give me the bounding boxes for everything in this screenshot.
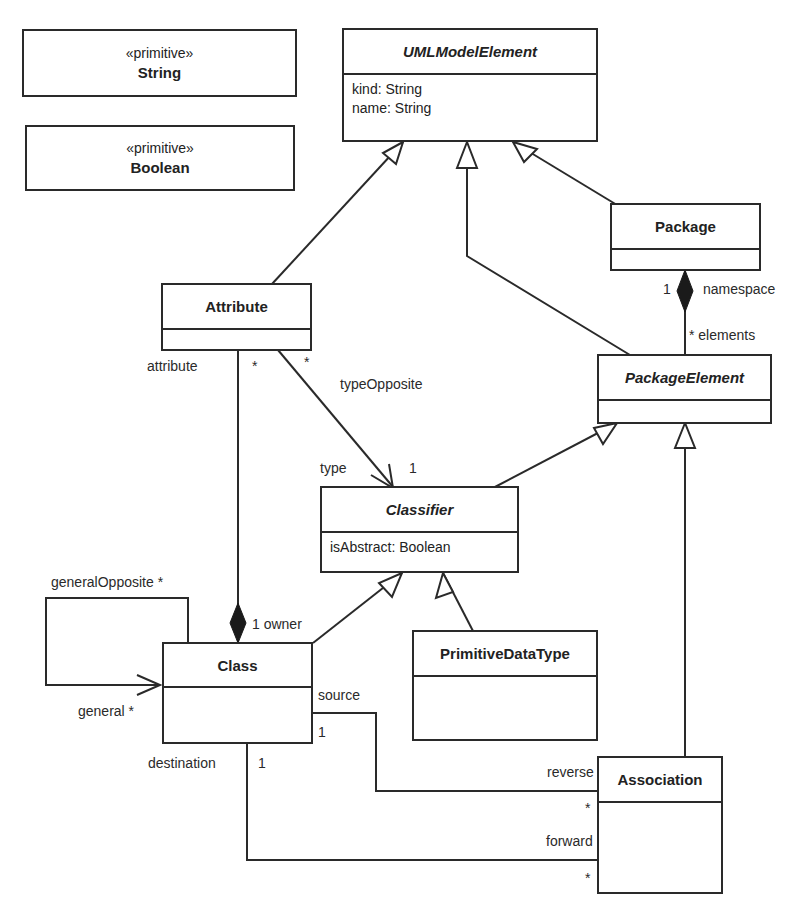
label-type-opposite: typeOpposite: [340, 376, 423, 392]
class-class[interactable]: Class: [162, 642, 313, 744]
attribute-list: kind: String name: String: [344, 75, 596, 123]
class-class-header: Class: [164, 644, 311, 688]
class-name: Package: [655, 218, 716, 235]
class-name: Classifier: [386, 501, 454, 518]
composition-diamond-package: [677, 270, 693, 312]
label-type-multiplicity: 1: [409, 460, 417, 476]
label-forward-multiplicity: *: [585, 870, 590, 886]
label-attribute-star-right: *: [304, 354, 309, 370]
stereotype: «primitive»: [126, 140, 194, 156]
stereotype: «primitive»: [126, 45, 194, 61]
label-namespace: namespace: [703, 281, 775, 297]
class-package-header: Package: [612, 205, 759, 250]
class-name: UMLModelElement: [403, 43, 537, 60]
label-type: type: [320, 460, 346, 476]
attribute-kind: kind: String: [352, 80, 588, 99]
label-reverse-multiplicity: *: [585, 800, 590, 816]
class-boolean[interactable]: «primitive» Boolean: [25, 125, 295, 191]
class-association-header: Association: [599, 758, 721, 803]
label-package-multiplicity: 1: [663, 281, 671, 297]
class-packageelement[interactable]: PackageElement: [597, 354, 772, 424]
label-forward: forward: [546, 833, 593, 849]
class-classifier[interactable]: Classifier isAbstract: Boolean: [320, 486, 519, 573]
class-umlmodelelement[interactable]: UMLModelElement kind: String name: Strin…: [342, 28, 598, 142]
class-name: PackageElement: [625, 369, 744, 386]
class-primitivedatatype-header: PrimitiveDataType: [414, 632, 596, 677]
label-destination-multiplicity: 1: [258, 755, 266, 771]
class-boolean-header: «primitive» Boolean: [27, 127, 293, 189]
class-classifier-header: Classifier: [322, 488, 517, 533]
label-source: source: [318, 687, 360, 703]
class-association[interactable]: Association: [597, 756, 723, 894]
class-name: Class: [217, 657, 257, 674]
class-name: Association: [617, 771, 702, 788]
label-attribute-role: attribute: [147, 358, 198, 374]
class-string[interactable]: «primitive» String: [22, 29, 297, 97]
generalization-packageelement: [467, 142, 630, 355]
composition-diamond-class: [230, 603, 246, 643]
class-name: String: [138, 64, 181, 81]
attribute-list: isAbstract: Boolean: [322, 533, 517, 562]
class-attribute-header: Attribute: [163, 285, 310, 330]
attribute-isabstract: isAbstract: Boolean: [330, 538, 509, 557]
label-source-multiplicity: 1: [318, 724, 326, 740]
label-elements: * elements: [689, 327, 755, 343]
class-umlmodelelement-header: UMLModelElement: [344, 30, 596, 75]
class-packageelement-header: PackageElement: [599, 356, 770, 401]
class-name: Boolean: [130, 159, 189, 176]
label-owner: 1 owner: [252, 616, 302, 632]
label-destination: destination: [148, 755, 216, 771]
attribute-name: name: String: [352, 99, 588, 118]
class-package[interactable]: Package: [610, 203, 761, 271]
label-general-opposite: generalOpposite *: [51, 574, 163, 590]
class-primitivedatatype[interactable]: PrimitiveDataType: [412, 630, 598, 741]
class-name: PrimitiveDataType: [440, 645, 570, 662]
label-general: general *: [78, 703, 134, 719]
class-name: Attribute: [205, 298, 268, 315]
label-attribute-star-left: *: [252, 358, 257, 374]
class-attribute[interactable]: Attribute: [161, 283, 312, 351]
label-reverse: reverse: [547, 764, 594, 780]
class-string-header: «primitive» String: [24, 31, 295, 95]
